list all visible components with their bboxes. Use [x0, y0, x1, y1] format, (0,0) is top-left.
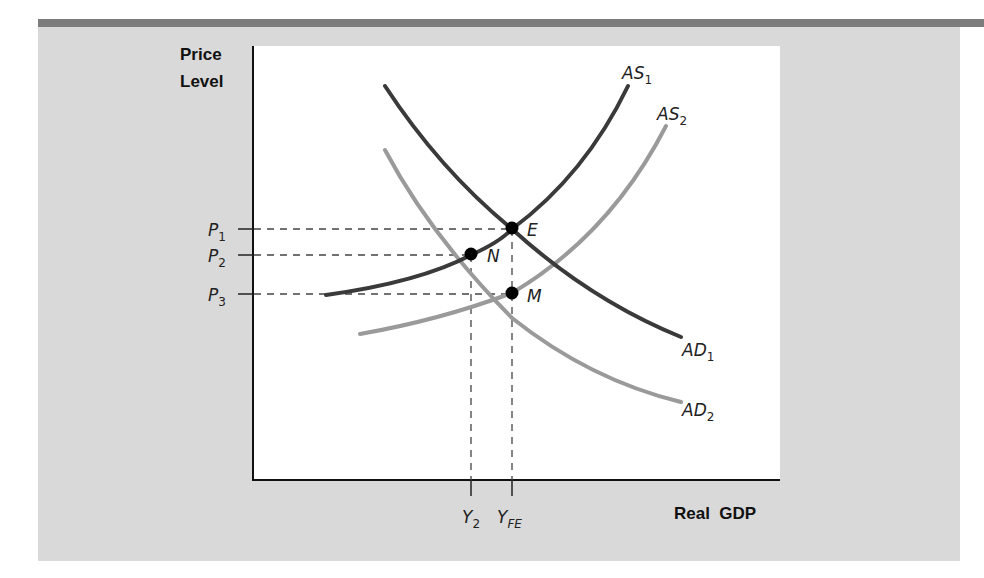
point-e-marker	[506, 222, 519, 235]
ad2-label: AD2	[681, 400, 714, 424]
as1-curve	[326, 86, 628, 295]
as2-label: AS2	[656, 104, 687, 128]
point-n-marker	[465, 248, 478, 261]
y-axis-title-line2: Level	[180, 72, 223, 91]
p3-label: P3	[208, 285, 226, 309]
y-axis-title-line1: Price	[180, 45, 222, 64]
guide-lines	[254, 229, 512, 480]
p1-label: P1	[208, 220, 226, 244]
x-ticks	[471, 480, 512, 496]
point-e-label: E	[527, 220, 538, 240]
y2-label: Y2	[462, 507, 480, 531]
as1-label: AS1	[621, 63, 652, 87]
p2-label: P2	[208, 246, 226, 270]
as-ad-chart: Price Level Real GDP E N M P1 P2 P3 Y2 Y…	[0, 0, 984, 578]
point-m-marker	[506, 287, 519, 300]
x-axis-title: Real GDP	[674, 504, 756, 523]
yfe-label: YFE	[497, 507, 522, 531]
point-m-label: M	[527, 286, 542, 306]
y-ticks	[238, 229, 253, 294]
ad1-label: AD1	[681, 340, 714, 364]
ad2-curve	[385, 150, 681, 402]
point-n-label: N	[487, 246, 500, 266]
